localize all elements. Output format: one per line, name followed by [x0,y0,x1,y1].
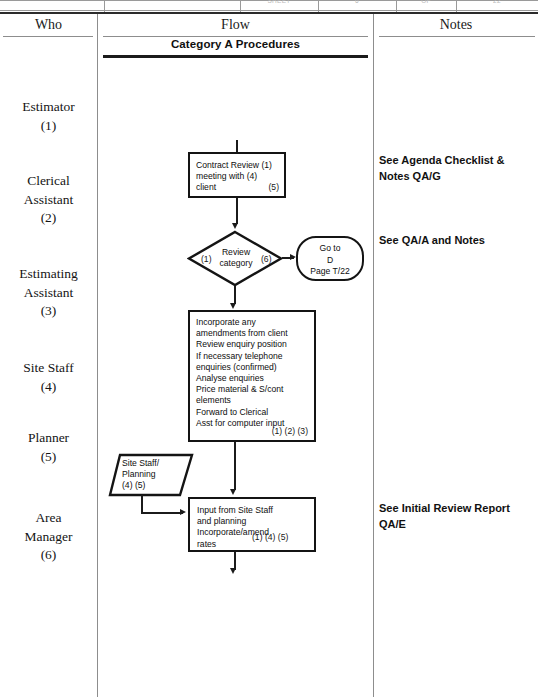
who-role-estimator: Estimator (1) [0,98,97,135]
column-header-notes: Notes [374,17,538,33]
strip-cell-of: OF [396,0,456,4]
connector-incorporate-to-input [234,442,236,490]
strip-cell-sheet: SHEET [240,0,318,4]
strip-cell-total: 22 [456,0,538,4]
who-role-name: Site Staff [0,359,97,378]
who-role-ref: (1) [0,117,97,136]
process-incorporate-amendments: Incorporate any amendments from client R… [188,310,316,442]
process-input-from-site-staff-text: Input from Site Staff and planning Incor… [197,505,315,550]
column-header-flow: Flow [98,17,373,33]
terminator-go-to-page-text: Go to D Page T/22 [298,243,362,278]
process-input-from-site-staff: Input from Site Staff and planning Incor… [188,497,316,552]
note-qa-a-and-notes: See QA/A and Notes [379,233,535,249]
input-source-label: Site Staff/ Planning (4) (5) [122,458,188,492]
who-role-name: Estimator [0,98,97,117]
flow-category-underline [103,55,368,58]
arrowhead-contract-to-decision [232,223,238,229]
who-role-ref: (3) [0,302,97,321]
who-role-name: Area Manager [0,509,97,546]
who-role-planner: Planner (5) [0,429,97,466]
note-agenda-checklist: See Agenda Checklist & Notes QA/G [379,153,535,184]
who-role-estimating-assistant: Estimating Assistant (3) [0,265,97,321]
decision-review-category: Review category (1) (6) [187,230,283,287]
column-divider-flow-notes [373,14,374,697]
process-incorporate-amendments-tag: (1) (2) (3) [272,426,308,436]
who-role-name: Planner [0,429,97,448]
strip-divider-1 [104,0,105,12]
header-rule-notes [379,36,535,37]
connector-decision-to-incorporate [234,286,236,304]
who-role-clerical-assistant: Clerical Assistant (2) [0,172,97,228]
flow-category-title: Category A Procedures [103,38,368,50]
process-incorporate-amendments-text: Incorporate any amendments from client R… [196,317,314,429]
header-rule-flow [103,36,368,37]
who-role-name: Clerical Assistant [0,172,97,209]
strip-cell-number: 6 [318,0,396,4]
who-role-ref: (2) [0,209,97,228]
strip-rule-bottom [0,10,538,11]
who-role-site-staff: Site Staff (4) [0,359,97,396]
process-contract-review-tag: (5) [268,182,279,192]
connector-contract-to-decision [236,198,238,224]
column-header-who: Who [0,17,97,33]
note-initial-review-report: See Initial Review Report QA/E [379,501,535,532]
decision-tag-right: (6) [261,254,272,264]
who-role-ref: (5) [0,448,97,467]
who-role-name: Estimating Assistant [0,265,97,302]
process-input-from-site-staff-tag: (1) (4) (5) [252,532,288,542]
arrowhead-incorporate-to-input [230,489,236,495]
column-divider-who-flow [97,14,98,697]
who-role-area-manager: Area Manager (6) [0,509,97,565]
connector-site-staff-right [141,512,183,514]
header-rule-who [3,36,93,37]
arrowhead-site-staff-to-input [180,509,186,515]
arrowhead-decision-to-incorporate [230,303,236,309]
who-role-ref: (6) [0,546,97,565]
table-top-border [0,12,538,14]
terminator-go-to-page: Go to D Page T/22 [296,236,364,281]
process-contract-review: Contract Review (1) meeting with (4) cli… [188,152,286,198]
connector-into-contract-review [236,140,238,152]
truncated-table-header-strip: SHEET 6 OF 22 [0,0,538,12]
decision-label: Review category [211,247,261,268]
input-source-site-staff-planning: Site Staff/ Planning (4) (5) [108,453,194,497]
decision-tag-left: (1) [201,254,212,264]
who-role-ref: (4) [0,378,97,397]
arrowhead-input-downstream [230,568,236,574]
connector-site-staff-down [141,495,143,513]
